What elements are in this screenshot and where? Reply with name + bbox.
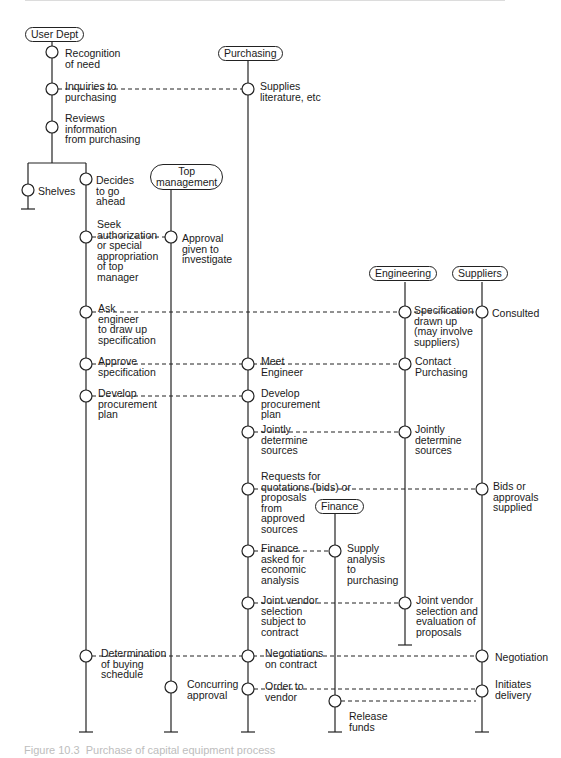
node-meet-engineer [242, 358, 254, 370]
label-concurring: Concurring approval [187, 679, 238, 700]
label-finance-asked: Finance asked for economic analysis [261, 543, 306, 585]
node-finance-asked [242, 545, 254, 557]
label-contact-purchasing: Contact Purchasing [415, 356, 468, 377]
node-determination [80, 650, 92, 662]
node-jointly-eng [399, 426, 411, 438]
lane-header-engineering: Engineering [369, 266, 437, 281]
node-bids [476, 483, 488, 495]
lane-header-purchasing: Purchasing [218, 46, 283, 61]
node-approve-spec [80, 358, 92, 370]
label-negotiation-supp: Negotiation [495, 652, 548, 663]
label-inquiries: Inquiries to purchasing [65, 81, 116, 102]
lane-header-top-management: Top management [150, 164, 223, 190]
label-seek-authorization: Seek authorization or special appropriat… [97, 219, 158, 282]
node-recognition [46, 46, 58, 58]
node-jointly-purch [242, 426, 254, 438]
node-concurring [165, 681, 177, 693]
node-supplies-literature [242, 83, 254, 95]
node-supply-analysis [329, 545, 341, 557]
label-jointly-eng: Jointly determine sources [415, 424, 462, 456]
label-determination: Determination of buying schedule [101, 648, 166, 680]
label-order-vendor: Order to vendor [265, 681, 304, 702]
label-reviews: Reviews information from purchasing [65, 113, 140, 145]
node-joint-vendor-purch [242, 597, 254, 609]
node-inquiries [46, 83, 58, 95]
label-requests: Requests for quotations (bids) or propos… [261, 471, 351, 534]
node-requests [242, 483, 254, 495]
node-decides [80, 173, 92, 185]
node-release-funds [329, 695, 341, 707]
node-contact-purchasing [399, 358, 411, 370]
label-supply-analysis: Supply analysis to purchasing [347, 543, 398, 585]
label-bids: Bids or approvals supplied [493, 481, 539, 513]
label-approval-given: Approval given to investigate [182, 233, 232, 265]
label-release-funds: Release funds [349, 711, 388, 732]
label-decides: Decides to go ahead [96, 175, 134, 207]
node-develop-user [80, 390, 92, 402]
lane-header-suppliers: Suppliers [452, 266, 508, 281]
label-supplies-literature: Supplies literature, etc [260, 81, 321, 102]
label-negotiations: Negotiations on contract [265, 648, 323, 669]
label-approve-spec: Approve specification [98, 356, 156, 377]
label-develop-user: Develop procurement plan [98, 388, 157, 420]
node-reviews [46, 121, 58, 133]
node-joint-vendor-eng [399, 597, 411, 609]
node-ask-engineer [80, 306, 92, 318]
lane-header-user-dept: User Dept [25, 27, 84, 42]
label-recognition: Recognition of need [65, 48, 120, 69]
node-consulted [476, 306, 488, 318]
node-approval-given [165, 231, 177, 243]
node-seek-authorization [80, 231, 92, 243]
label-initiates-delivery: Initiates delivery [495, 679, 531, 700]
node-initiates-delivery [476, 685, 488, 697]
label-joint-vendor-purch: Joint vendor selection subject to contra… [261, 595, 318, 637]
node-negotiations [242, 650, 254, 662]
node-develop-purch [242, 390, 254, 402]
node-negotiation-supp [476, 650, 488, 662]
figure-caption: Figure 10.3 Purchase of capital equipmen… [24, 744, 275, 756]
label-consulted: Consulted [492, 308, 539, 319]
label-ask-engineer: Ask engineer to draw up specification [98, 303, 156, 345]
label-develop-purch: Develop procurement plan [261, 388, 320, 420]
label-jointly-purch: Jointly determine sources [261, 424, 308, 456]
label-shelves: Shelves [38, 186, 75, 197]
node-shelves [22, 184, 34, 196]
label-spec-drawn: Specification drawn up (may involve supp… [414, 305, 474, 347]
label-meet-engineer: Meet Engineer [261, 356, 303, 377]
label-joint-vendor-eng: Joint vendor selection and evaluation of… [416, 595, 478, 637]
node-order-vendor [242, 683, 254, 695]
node-spec-drawn [399, 306, 411, 318]
